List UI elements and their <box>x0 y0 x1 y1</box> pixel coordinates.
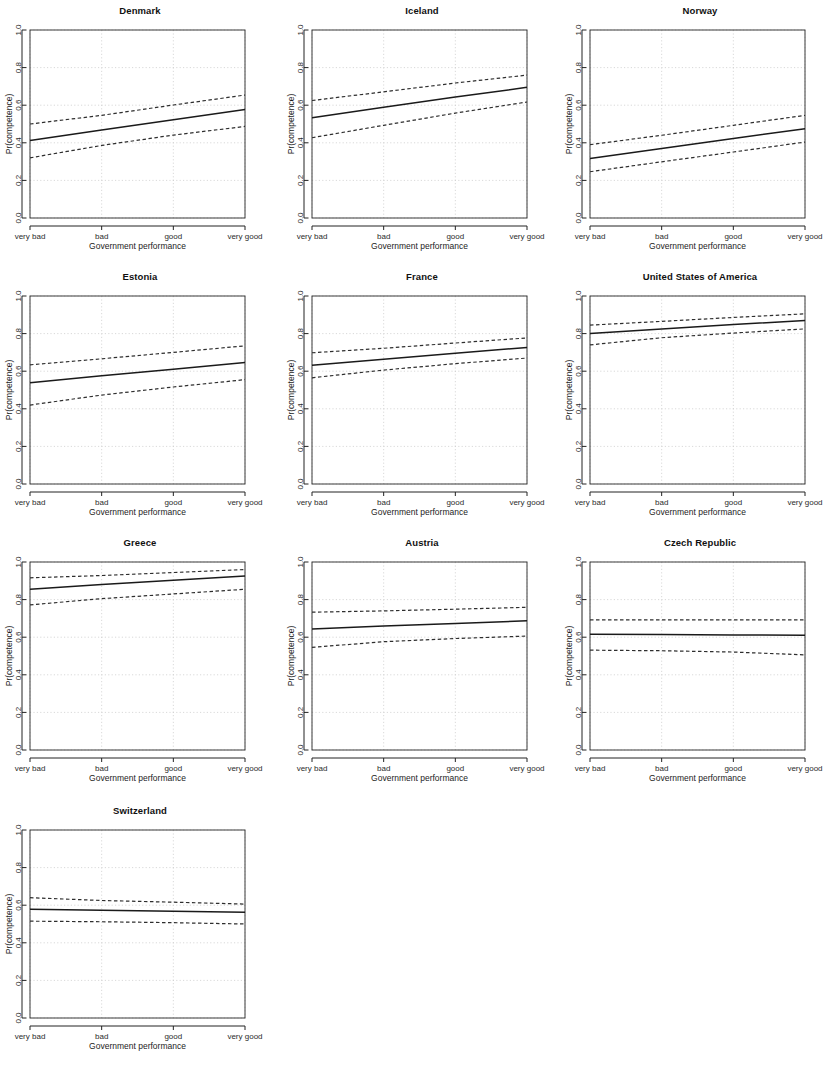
y-axis-tick-label: 0.4 <box>574 137 583 149</box>
x-axis-tick-label: good <box>164 764 182 773</box>
y-axis-tick-label: 0.8 <box>14 861 23 873</box>
y-axis-tick-label: 1.0 <box>14 24 23 36</box>
x-axis-tick-label: very bad <box>15 764 46 773</box>
y-axis-tick-label: 0.8 <box>14 327 23 339</box>
y-axis-tick-label: 0.6 <box>14 631 23 643</box>
x-axis-tick-label: good <box>446 764 464 773</box>
y-axis-tick-label: 0.8 <box>574 327 583 339</box>
y-axis-tick-label: 0.0 <box>14 212 23 224</box>
y-axis-tick-label: 0.4 <box>296 137 305 149</box>
fit-line <box>30 909 245 912</box>
y-axis-tick-label: 0.6 <box>574 99 583 111</box>
x-axis-tick-label: good <box>724 764 742 773</box>
x-axis-tick-label: very good <box>509 232 544 241</box>
y-axis-tick-label: 0.2 <box>574 706 583 718</box>
plot-box <box>30 562 245 750</box>
y-axis-tick-label: 0.2 <box>14 440 23 452</box>
plot-area: 0.00.20.40.60.81.0Pr(competence)very bad… <box>0 266 280 532</box>
y-axis-tick-label: 0.6 <box>296 365 305 377</box>
panel-czech-republic: Czech Republic0.00.20.40.60.81.0Pr(compe… <box>560 532 840 798</box>
y-axis-tick-label: 0.4 <box>14 669 23 681</box>
x-axis-title: Government performance <box>89 1041 186 1051</box>
y-axis-tick-label: 0.0 <box>14 478 23 490</box>
confidence-interval-line <box>30 898 245 904</box>
x-axis-title: Government performance <box>649 507 746 517</box>
y-axis-title: Pr(competence) <box>564 94 574 155</box>
x-axis-tick-label: bad <box>95 498 108 507</box>
y-axis-tick-label: 0.6 <box>14 899 23 911</box>
x-axis-title: Government performance <box>89 507 186 517</box>
plot-box <box>312 30 527 218</box>
y-axis-tick-label: 0.6 <box>574 631 583 643</box>
x-axis-tick-label: bad <box>377 498 390 507</box>
confidence-interval-line <box>30 589 245 605</box>
x-axis-tick-label: very good <box>227 498 262 507</box>
y-axis-tick-label: 1.0 <box>14 824 23 836</box>
y-axis-tick-label: 0.8 <box>296 61 305 73</box>
y-axis-tick-label: 0.8 <box>14 61 23 73</box>
panel-austria: Austria0.00.20.40.60.81.0Pr(competence)v… <box>282 532 562 798</box>
confidence-interval-line <box>30 95 245 124</box>
fit-line <box>312 87 527 117</box>
y-axis-title: Pr(competence) <box>4 94 14 155</box>
y-axis-tick-label: 0.2 <box>296 706 305 718</box>
x-axis-tick-label: very good <box>509 498 544 507</box>
y-axis-tick-label: 0.2 <box>296 174 305 186</box>
fit-line <box>30 110 245 141</box>
y-axis-tick-label: 0.4 <box>14 137 23 149</box>
y-axis-tick-label: 0.2 <box>574 174 583 186</box>
x-axis-tick-label: good <box>164 1032 182 1041</box>
y-axis-tick-label: 0.6 <box>296 99 305 111</box>
y-axis-tick-label: 0.6 <box>14 365 23 377</box>
confidence-interval-line <box>30 126 245 157</box>
confidence-interval-line <box>590 314 805 325</box>
x-axis-tick-label: very good <box>227 1032 262 1041</box>
x-axis-tick-label: very bad <box>297 498 328 507</box>
y-axis-title: Pr(competence) <box>564 360 574 421</box>
plot-box <box>30 296 245 484</box>
y-axis-title: Pr(competence) <box>4 894 14 955</box>
y-axis-tick-label: 1.0 <box>296 556 305 568</box>
x-axis-tick-label: good <box>724 232 742 241</box>
confidence-interval-line <box>312 636 527 647</box>
x-axis-tick-label: bad <box>655 764 668 773</box>
x-axis-tick-label: very bad <box>575 764 606 773</box>
y-axis-title: Pr(competence) <box>4 360 14 421</box>
y-axis-tick-label: 0.2 <box>14 974 23 986</box>
x-axis-title: Government performance <box>89 773 186 783</box>
y-axis-tick-label: 0.4 <box>296 669 305 681</box>
plot-area: 0.00.20.40.60.81.0Pr(competence)very bad… <box>560 266 840 532</box>
y-axis-tick-label: 0.8 <box>574 593 583 605</box>
fit-line <box>30 576 245 589</box>
x-axis-tick-label: bad <box>377 232 390 241</box>
x-axis-title: Government performance <box>89 241 186 251</box>
x-axis-tick-label: very good <box>787 498 822 507</box>
x-axis-tick-label: very bad <box>15 498 46 507</box>
panel-denmark: Denmark0.00.20.40.60.81.0Pr(competence)v… <box>0 0 280 266</box>
y-axis-tick-label: 0.4 <box>296 403 305 415</box>
confidence-interval-line <box>590 142 805 172</box>
y-axis-title: Pr(competence) <box>286 360 296 421</box>
plot-area: 0.00.20.40.60.81.0Pr(competence)very bad… <box>0 0 280 266</box>
fit-line <box>30 363 245 383</box>
x-axis-title: Government performance <box>371 507 468 517</box>
x-axis-title: Government performance <box>371 773 468 783</box>
confidence-interval-line <box>590 650 805 655</box>
confidence-interval-line <box>30 570 245 578</box>
x-axis-tick-label: good <box>164 498 182 507</box>
x-axis-tick-label: very good <box>787 764 822 773</box>
plot-area: 0.00.20.40.60.81.0Pr(competence)very bad… <box>560 0 840 266</box>
x-axis-tick-label: very bad <box>297 764 328 773</box>
plot-area: 0.00.20.40.60.81.0Pr(competence)very bad… <box>282 532 562 798</box>
x-axis-tick-label: very bad <box>15 232 46 241</box>
confidence-interval-line <box>30 346 245 365</box>
x-axis-tick-label: good <box>164 232 182 241</box>
fit-line <box>312 621 527 629</box>
plot-box <box>312 296 527 484</box>
panel-grid: Denmark0.00.20.40.60.81.0Pr(competence)v… <box>0 0 840 1068</box>
plot-box <box>312 562 527 750</box>
y-axis-tick-label: 0.0 <box>14 1012 23 1024</box>
y-axis-tick-label: 1.0 <box>14 556 23 568</box>
y-axis-tick-label: 0.2 <box>14 706 23 718</box>
y-axis-tick-label: 1.0 <box>296 24 305 36</box>
